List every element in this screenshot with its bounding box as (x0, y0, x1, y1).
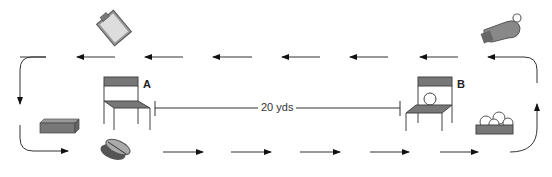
shoes-icon (98, 136, 132, 163)
ball-basket-icon (476, 112, 513, 134)
station-label-a: A (143, 78, 151, 90)
clipboard-icon (95, 8, 132, 46)
station-label-b: B (457, 78, 465, 90)
left-curve-down (20, 57, 46, 104)
right-curve-up (510, 104, 537, 152)
block-icon (40, 119, 79, 133)
right-curve-top (505, 57, 537, 83)
whistle-icon (481, 14, 521, 43)
drill-diagram (0, 0, 552, 177)
distance-label: 20 yds (258, 101, 296, 113)
chair-b (406, 77, 452, 131)
